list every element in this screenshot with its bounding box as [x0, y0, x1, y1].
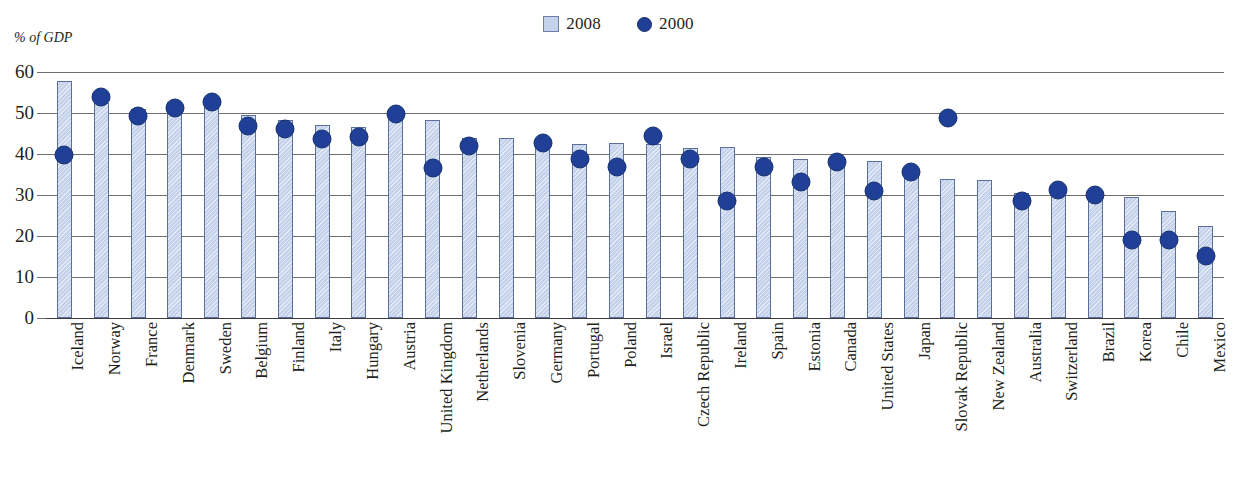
x-axis-label: Portugal	[586, 322, 603, 378]
x-axis-label: Korea	[1138, 322, 1155, 362]
legend-circle-dot-icon	[637, 17, 652, 32]
chart-container: 2008 2000 % of GDP 0102030405060 Iceland…	[0, 0, 1237, 488]
y-tick-mark-0	[37, 318, 46, 319]
data-point-dot	[92, 87, 111, 106]
data-point-dot	[460, 137, 479, 156]
x-axis-label: United Kingdom	[439, 322, 456, 433]
data-point-dot	[718, 191, 737, 210]
dots-layer	[46, 72, 1224, 318]
y-tick-mark-10	[37, 277, 46, 278]
x-axis-label: Chile	[1175, 322, 1192, 358]
data-point-dot	[165, 98, 184, 117]
data-point-dot	[938, 109, 957, 128]
x-axis-label: Iceland	[70, 322, 87, 371]
data-point-dot	[754, 158, 773, 177]
y-tick-label-50: 50	[15, 102, 34, 124]
data-point-dot	[276, 120, 295, 139]
y-tick-mark-30	[37, 195, 46, 196]
x-axis-label: Brazil	[1101, 322, 1118, 362]
data-point-dot	[202, 92, 221, 111]
data-point-dot	[902, 162, 921, 181]
x-axis-label: New Zealand	[991, 322, 1008, 410]
x-axis-label: Slovenia	[512, 322, 529, 380]
legend-label-2008: 2008	[566, 14, 601, 34]
data-point-dot	[570, 150, 589, 169]
data-point-dot	[1196, 247, 1215, 266]
data-point-dot	[644, 127, 663, 146]
x-axis-label: Sweden	[218, 322, 235, 374]
chart-legend: 2008 2000	[0, 14, 1237, 34]
x-axis-label: Belgium	[254, 322, 271, 379]
data-point-dot	[239, 117, 258, 136]
y-axis-title: % of GDP	[14, 30, 72, 46]
x-axis-label: Netherlands	[475, 322, 492, 402]
data-point-dot	[349, 127, 368, 146]
data-point-dot	[791, 172, 810, 191]
x-axis-label: Switzerland	[1064, 322, 1081, 401]
data-point-dot	[129, 106, 148, 125]
data-point-dot	[828, 152, 847, 171]
y-tick-label-40: 40	[15, 143, 34, 165]
legend-label-2000: 2000	[659, 14, 694, 34]
x-axis-label: Israel	[659, 322, 676, 359]
y-tick-label-0: 0	[25, 307, 35, 329]
x-axis-label: Poland	[623, 322, 640, 368]
x-axis-label: Czech Republic	[696, 322, 713, 427]
y-tick-mark-60	[37, 72, 46, 73]
data-point-dot	[1049, 181, 1068, 200]
x-axis-label: Mexico	[1212, 322, 1229, 372]
y-tick-label-20: 20	[15, 225, 34, 247]
x-axis-label: Denmark	[181, 322, 198, 383]
legend-entry-2008: 2008	[543, 14, 601, 34]
data-point-dot	[607, 157, 626, 176]
y-tick-mark-40	[37, 154, 46, 155]
x-axis-label: Australia	[1028, 322, 1045, 382]
data-point-dot	[1086, 186, 1105, 205]
x-axis-label: Canada	[843, 322, 860, 371]
x-axis-label: Norway	[107, 322, 124, 375]
data-point-dot	[533, 134, 552, 153]
x-axis-label: United States	[880, 322, 897, 410]
y-tick-label-10: 10	[15, 266, 34, 288]
data-point-dot	[1012, 191, 1031, 210]
data-point-dot	[1159, 231, 1178, 250]
x-axis-label: Spain	[770, 322, 787, 360]
x-axis-label: Italy	[328, 322, 345, 352]
x-axis-label: Estonia	[807, 322, 824, 372]
y-tick-label-60: 60	[15, 61, 34, 83]
data-point-dot	[1122, 231, 1141, 250]
data-point-dot	[423, 159, 442, 178]
plot-area: 0102030405060	[46, 72, 1224, 318]
data-point-dot	[313, 130, 332, 149]
data-point-dot	[386, 105, 405, 124]
data-point-dot	[865, 182, 884, 201]
x-axis-label: Slovak Republic	[954, 322, 971, 432]
x-axis-label: Austria	[402, 322, 419, 371]
legend-entry-2000: 2000	[637, 14, 694, 34]
x-axis-label: Ireland	[733, 322, 750, 369]
y-tick-mark-50	[37, 113, 46, 114]
x-axis-label: Hungary	[365, 322, 382, 380]
x-axis-label: Finland	[291, 322, 308, 372]
gridline-0	[46, 318, 1224, 319]
data-point-dot	[55, 146, 74, 165]
x-axis-label: Japan	[917, 322, 934, 360]
data-point-dot	[681, 150, 700, 169]
x-axis-label: Germany	[549, 322, 566, 383]
x-axis-category-labels: IcelandNorwayFranceDenmarkSwedenBelgiumF…	[46, 322, 1224, 488]
y-tick-mark-20	[37, 236, 46, 237]
x-axis-label: France	[144, 322, 161, 367]
legend-square-swatch-icon	[543, 16, 559, 32]
y-tick-label-30: 30	[15, 184, 34, 206]
